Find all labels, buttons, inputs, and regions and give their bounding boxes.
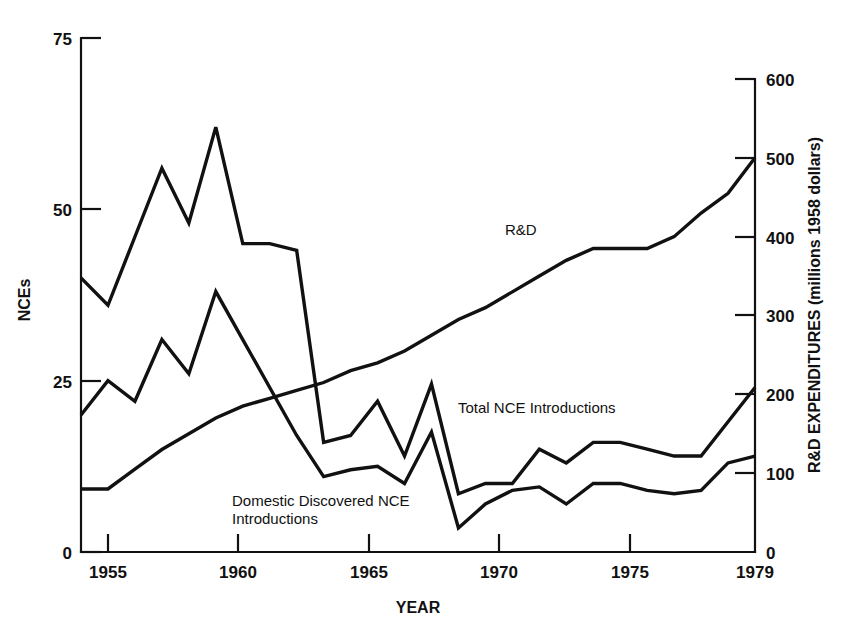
x-axis-title: YEAR [396,599,441,616]
left-tick-label-75: 75 [53,30,72,49]
line-chart-svg: 75 50 25 0 600 500 400 300 200 100 0 [0,0,848,628]
left-tick-label-25: 25 [53,373,72,392]
right-tick-label-300: 300 [766,307,794,326]
x-tick-label-1960: 1960 [219,563,257,582]
series-label-total-nce: Total NCE Introductions [458,399,616,416]
x-tick-label-1979: 1979 [736,563,774,582]
series-line-domestic-nce [81,292,755,528]
chart-figure: 75 50 25 0 600 500 400 300 200 100 0 [0,0,848,628]
right-tick-label-0: 0 [766,544,775,563]
left-axis-ticks: 75 50 25 0 [53,30,101,563]
right-tick-label-500: 500 [766,150,794,169]
x-tick-label-1975: 1975 [611,563,649,582]
x-tick-label-1970: 1970 [480,563,518,582]
x-axis-ticks: 1955 1960 1965 1970 1975 1979 [89,534,774,582]
right-tick-label-200: 200 [766,386,794,405]
right-tick-label-600: 600 [766,71,794,90]
series-layer [81,127,755,528]
right-tick-label-400: 400 [766,229,794,248]
series-label-domestic-nce-line1: Domestic Discovered NCE [232,492,410,509]
right-axis-ticks: 600 500 400 300 200 100 0 [735,71,794,563]
x-tick-label-1955: 1955 [89,563,127,582]
left-tick-label-0: 0 [63,544,72,563]
series-label-domestic-nce-line2: Introductions [232,510,318,527]
x-tick-label-1965: 1965 [350,563,388,582]
right-tick-label-100: 100 [766,465,794,484]
series-label-rd: R&D [505,221,537,238]
left-tick-label-50: 50 [53,201,72,220]
y2-axis-title: R&D EXPENDITURES (millions 1958 dollars) [806,137,823,473]
y-axis-title: NCEs [16,279,33,322]
chart-axes [81,38,755,552]
